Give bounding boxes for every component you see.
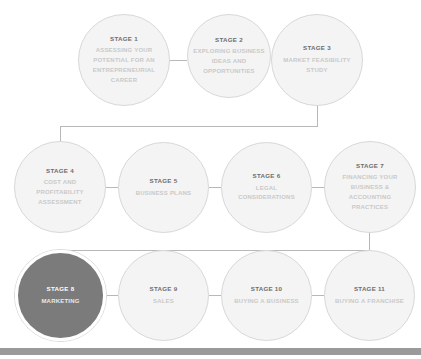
stage-1-title: STAGE 1 (110, 35, 138, 43)
node-stage-2[interactable]: STAGE 2 EXPLORING BUSINESS IDEAS AND OPP… (187, 14, 271, 98)
node-stage-3[interactable]: STAGE 3 MARKET FEASIBILITY STUDY (271, 14, 363, 106)
stages-flowchart: STAGE 1 ASSESSING YOUR POTENTIAL FOR AN … (0, 0, 421, 359)
node-stage-9[interactable]: STAGE 9 SALES (118, 250, 209, 341)
stage-8-description: MARKETING (41, 297, 79, 307)
stage-3-title: STAGE 3 (303, 44, 331, 52)
stage-10-description: BUYING A BUSINESS (234, 297, 299, 307)
stage-3-description: MARKET FEASIBILITY STUDY (277, 56, 357, 75)
node-stage-1[interactable]: STAGE 1 ASSESSING YOUR POTENTIAL FOR AN … (78, 14, 170, 106)
stage-4-title: STAGE 4 (46, 167, 74, 175)
stage-2-description: EXPLORING BUSINESS IDEAS AND OPPORTUNITI… (193, 47, 265, 76)
stage-9-title: STAGE 9 (150, 285, 178, 293)
stage-7-title: STAGE 7 (356, 162, 384, 170)
connector-row2-row3 (60, 233, 369, 259)
stage-2-title: STAGE 2 (215, 36, 243, 44)
stage-8-highlight-disc: STAGE 8 MARKETING (15, 250, 106, 341)
stage-9-description: SALES (153, 297, 174, 307)
node-stage-8[interactable]: STAGE 8 MARKETING (14, 249, 107, 342)
stage-10-title: STAGE 10 (251, 285, 282, 293)
stage-8-title: STAGE 8 (47, 285, 75, 293)
stage-6-description: LEGAL CONSIDERATIONS (227, 184, 306, 203)
stage-6-title: STAGE 6 (253, 172, 281, 180)
stage-5-title: STAGE 5 (150, 177, 178, 185)
stage-7-description: FINANCING YOUR BUSINESS & ACCOUNTING PRA… (330, 173, 410, 212)
bottom-accent-bar (0, 348, 421, 355)
connector-row1-row2 (60, 106, 317, 141)
node-stage-11[interactable]: STAGE 11 BUYING A FRANCHISE (324, 250, 415, 341)
node-stage-7[interactable]: STAGE 7 FINANCING YOUR BUSINESS & ACCOUN… (324, 141, 416, 233)
node-stage-4[interactable]: STAGE 4 COST AND PROFITABILITY ASSESSMEN… (14, 141, 106, 233)
node-stage-5[interactable]: STAGE 5 BUSINESS PLANS (118, 142, 209, 233)
node-stage-10[interactable]: STAGE 10 BUYING A BUSINESS (221, 250, 312, 341)
stage-11-description: BUYING A FRANCHISE (335, 297, 404, 307)
stage-11-title: STAGE 11 (354, 285, 385, 293)
stage-5-description: BUSINESS PLANS (136, 189, 191, 199)
stage-1-description: ASSESSING YOUR POTENTIAL FOR AN ENTREPRE… (84, 46, 164, 85)
bottom-margin (0, 355, 421, 359)
node-stage-6[interactable]: STAGE 6 LEGAL CONSIDERATIONS (221, 142, 312, 233)
stage-4-description: COST AND PROFITABILITY ASSESSMENT (20, 178, 100, 207)
